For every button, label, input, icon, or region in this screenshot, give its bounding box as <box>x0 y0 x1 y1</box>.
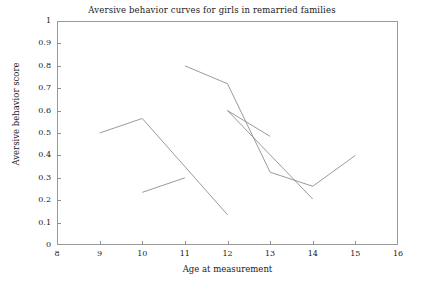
y-tick-mark <box>57 223 61 224</box>
x-tick-mark <box>185 241 186 245</box>
x-tick-label: 13 <box>258 249 282 258</box>
data-line <box>100 118 228 214</box>
plot-lines <box>57 21 398 245</box>
data-line <box>142 178 185 193</box>
y-tick-mark <box>57 133 61 134</box>
y-tick-mark <box>57 155 61 156</box>
y-tick-label: 0.3 <box>23 173 51 182</box>
y-tick-label: 0 <box>23 240 51 249</box>
x-tick-mark <box>100 241 101 245</box>
x-tick-label: 9 <box>88 249 112 258</box>
x-tick-label: 16 <box>386 249 410 258</box>
x-tick-mark <box>355 241 356 245</box>
x-tick-mark <box>313 241 314 245</box>
y-tick-mark <box>57 178 61 179</box>
y-axis-label: Aversive behavior score <box>11 34 21 194</box>
y-tick-mark <box>57 111 61 112</box>
x-tick-label: 10 <box>130 249 154 258</box>
y-tick-label: 0.8 <box>23 61 51 70</box>
y-tick-label: 0.5 <box>23 128 51 137</box>
y-tick-mark <box>57 88 61 89</box>
y-tick-label: 0.1 <box>23 218 51 227</box>
x-tick-label: 15 <box>343 249 367 258</box>
chart-screenshot: Aversive behavior curves for girls in re… <box>0 0 424 293</box>
x-tick-label: 8 <box>45 249 69 258</box>
y-tick-label: 0.9 <box>23 38 51 47</box>
x-tick-label: 12 <box>216 249 240 258</box>
chart-title: Aversive behavior curves for girls in re… <box>0 5 424 15</box>
y-tick-label: 0.4 <box>23 150 51 159</box>
y-tick-mark <box>57 200 61 201</box>
y-tick-label: 0.2 <box>23 195 51 204</box>
x-tick-mark <box>270 241 271 245</box>
x-axis-label: Age at measurement <box>57 264 398 274</box>
y-tick-label: 0.7 <box>23 83 51 92</box>
y-tick-mark <box>57 43 61 44</box>
x-tick-mark <box>228 241 229 245</box>
y-tick-label: 1 <box>23 16 51 25</box>
data-line <box>185 66 356 187</box>
x-tick-label: 11 <box>173 249 197 258</box>
y-tick-mark <box>57 66 61 67</box>
data-line <box>228 111 313 199</box>
x-tick-label: 14 <box>301 249 325 258</box>
y-tick-label: 0.6 <box>23 106 51 115</box>
x-tick-mark <box>142 241 143 245</box>
